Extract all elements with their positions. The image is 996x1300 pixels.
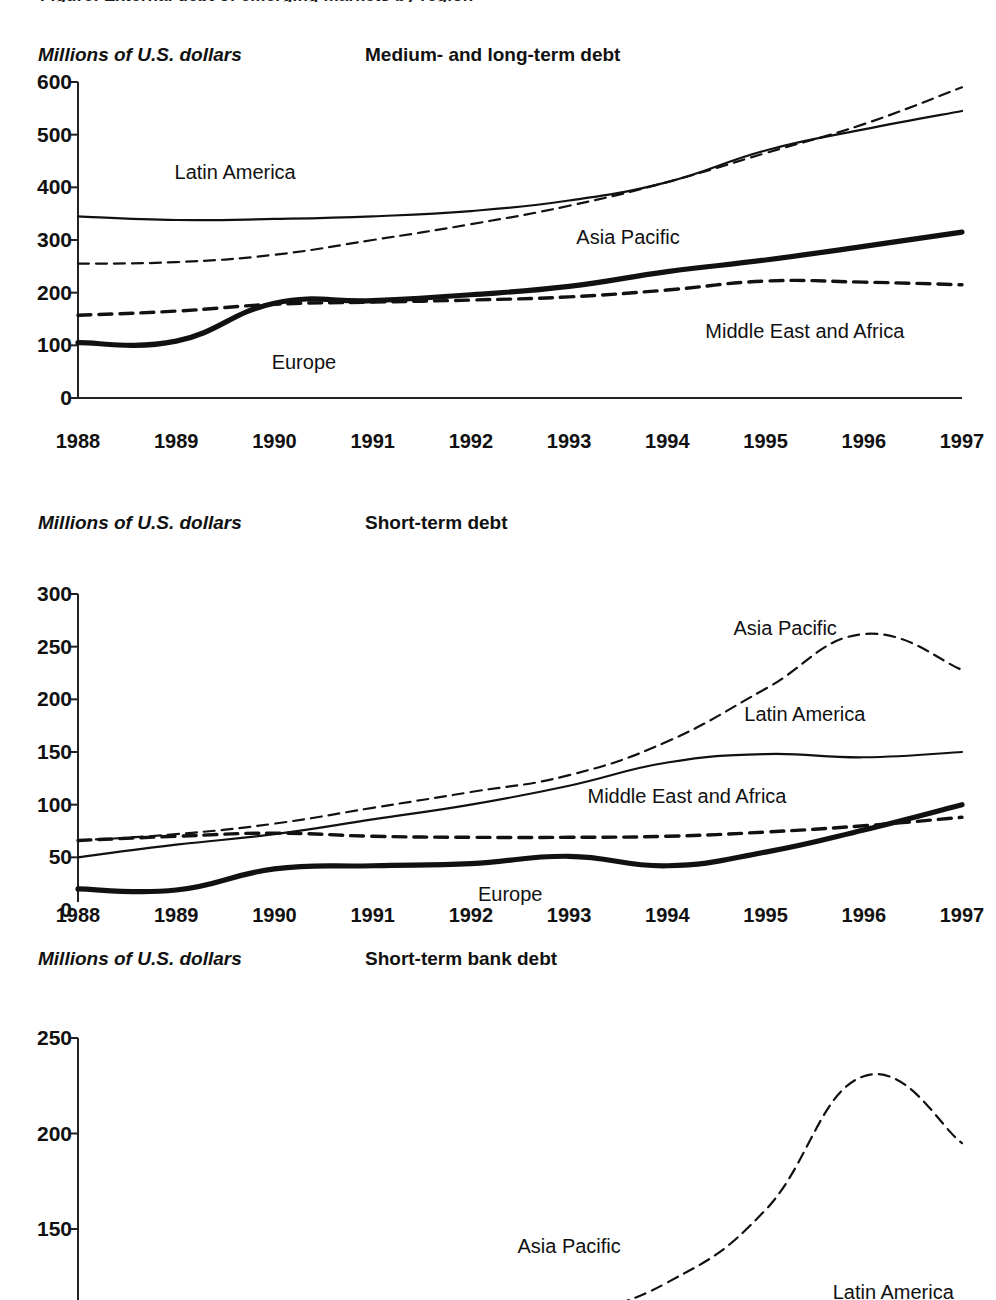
series-label: Middle East and Africa xyxy=(587,785,786,808)
x-axis-tick-label: 1997 xyxy=(940,430,985,453)
series-label: Europe xyxy=(478,883,543,906)
x-axis-tick-label: 1993 xyxy=(547,904,592,927)
x-axis-tick-label: 1992 xyxy=(449,430,494,453)
figure-caption-sliver: Figure: External debt of emerging market… xyxy=(40,0,473,2)
x-axis-tick-label: 1996 xyxy=(842,430,887,453)
x-axis-tick-label: 1989 xyxy=(154,430,199,453)
series-annotations: Asia PacificLatin AmericaMiddle East and… xyxy=(0,572,996,902)
series-label: Asia Pacific xyxy=(517,1235,620,1258)
panel-short-term-debt: Millions of U.S. dollars Short-term debt… xyxy=(0,512,996,542)
plot-area: 100150200250 Asia PacificLatin AmericaMi… xyxy=(0,1000,996,1300)
x-axis-tick-label: 1995 xyxy=(743,904,788,927)
y-axis-unit-label: Millions of U.S. dollars xyxy=(38,948,242,970)
panel-title: Short-term bank debt xyxy=(365,948,557,970)
series-label: Latin America xyxy=(833,1281,954,1300)
x-axis-tick-label: 1990 xyxy=(252,430,297,453)
series-annotations: Asia PacificLatin AmericaMiddle East and… xyxy=(0,1000,996,1300)
x-axis-tick-label: 1991 xyxy=(350,430,395,453)
x-axis-tick-label: 1997 xyxy=(940,904,985,927)
x-axis-tick-label: 1995 xyxy=(743,430,788,453)
x-axis-tick-label: 1996 xyxy=(842,904,887,927)
x-axis-tick-label: 1990 xyxy=(252,904,297,927)
x-axis-tick-label: 1988 xyxy=(56,430,101,453)
x-axis-tick-label: 1992 xyxy=(449,904,494,927)
x-axis-tick-label: 1994 xyxy=(645,904,690,927)
series-label: Latin America xyxy=(744,703,865,726)
series-label: Asia Pacific xyxy=(734,616,837,639)
panel-medium-long-term-debt: Millions of U.S. dollars Medium- and lon… xyxy=(0,44,996,74)
y-axis-unit-label: Millions of U.S. dollars xyxy=(38,44,242,66)
series-label: Europe xyxy=(272,351,337,374)
panel-header: Millions of U.S. dollars Short-term debt xyxy=(0,512,996,542)
panel-short-term-bank-debt: Millions of U.S. dollars Short-term bank… xyxy=(0,948,996,978)
y-axis-unit-label: Millions of U.S. dollars xyxy=(38,512,242,534)
panel-header: Millions of U.S. dollars Short-term bank… xyxy=(0,948,996,978)
x-axis-tick-label: 1994 xyxy=(645,430,690,453)
x-axis-labels: 1988198919901991199219931994199519961997 xyxy=(0,904,996,932)
plot-area: 0100200300400500600 Latin AmericaAsia Pa… xyxy=(0,66,996,416)
series-annotations: Latin AmericaAsia PacificMiddle East and… xyxy=(0,66,996,416)
x-axis-tick-label: 1988 xyxy=(56,904,101,927)
x-axis-labels: 1988198919901991199219931994199519961997 xyxy=(0,430,996,458)
panel-title: Short-term debt xyxy=(365,512,508,534)
plot-area: 050100150200250300 Asia PacificLatin Ame… xyxy=(0,572,996,902)
series-label: Asia Pacific xyxy=(576,226,679,249)
panel-title: Medium- and long-term debt xyxy=(365,44,620,66)
x-axis-tick-label: 1989 xyxy=(154,904,199,927)
series-label: Middle East and Africa xyxy=(705,319,904,342)
x-axis-tick-label: 1991 xyxy=(350,904,395,927)
series-label: Latin America xyxy=(175,160,296,183)
x-axis-tick-label: 1993 xyxy=(547,430,592,453)
